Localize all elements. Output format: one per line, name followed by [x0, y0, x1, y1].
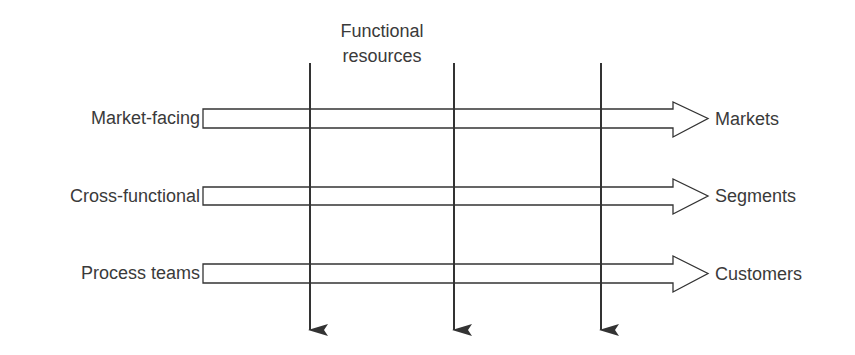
block-arrow-process-teams: [203, 256, 708, 292]
row-label-process-teams: Process teams: [0, 263, 200, 283]
target-label-customers: Customers: [715, 264, 802, 284]
title-line-1: Functional: [312, 19, 452, 44]
target-label-markets: Markets: [715, 109, 779, 129]
row-label-cross-functional: Cross-functional: [0, 186, 200, 206]
block-arrow-cross-functional: [203, 179, 708, 214]
block-arrow-market-facing: [203, 102, 708, 137]
row-label-market-facing: Market-facing: [0, 108, 200, 128]
functional-resources-title: Functional resources: [312, 19, 452, 69]
title-line-2: resources: [312, 44, 452, 69]
target-label-segments: Segments: [715, 186, 796, 206]
